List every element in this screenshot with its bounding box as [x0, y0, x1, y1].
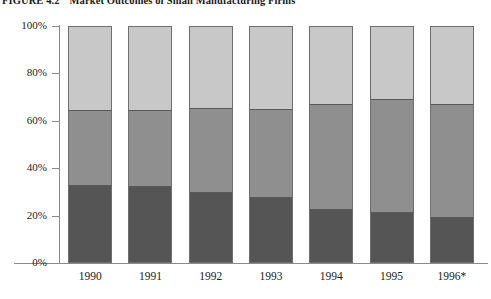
bar-column[interactable]	[249, 26, 293, 263]
bar-segment[interactable]	[189, 26, 233, 108]
bar-segment[interactable]	[309, 209, 353, 264]
y-axis-tick	[52, 73, 60, 74]
bar-column[interactable]	[128, 26, 172, 263]
bar-segment[interactable]	[128, 110, 172, 186]
y-axis-tick-label: 40%	[0, 162, 47, 173]
bar-segment[interactable]	[68, 110, 112, 185]
bar-column[interactable]	[370, 26, 414, 263]
bar-column[interactable]	[68, 26, 112, 263]
bar-segment[interactable]	[249, 109, 293, 197]
bar-segment[interactable]	[309, 26, 353, 104]
bar-segment[interactable]	[249, 26, 293, 109]
stacked-bar-chart: 0%20%40%60%80%100% 199019911992199319941…	[0, 0, 491, 299]
bar-segment[interactable]	[189, 192, 233, 263]
bar-segment[interactable]	[128, 26, 172, 110]
x-axis-line	[14, 263, 488, 264]
y-axis-tick-label: 20%	[0, 210, 47, 221]
bar-segment[interactable]	[430, 26, 474, 104]
bar-segment[interactable]	[68, 185, 112, 263]
x-axis-label: 1996*	[417, 270, 487, 282]
bar-segment[interactable]	[309, 104, 353, 208]
bar-segment[interactable]	[430, 104, 474, 217]
bar-segment[interactable]	[68, 26, 112, 110]
y-axis-tick	[52, 168, 60, 169]
y-axis-tick	[52, 216, 60, 217]
bar-segment[interactable]	[430, 217, 474, 263]
bar-column[interactable]	[189, 26, 233, 263]
bar-segment[interactable]	[249, 197, 293, 263]
y-axis-tick-label: 0%	[0, 257, 47, 268]
bar-segment[interactable]	[370, 26, 414, 99]
y-axis-tick-label: 100%	[0, 20, 47, 31]
bar-column[interactable]	[430, 26, 474, 263]
bar-segment[interactable]	[128, 186, 172, 263]
y-axis-tick	[52, 26, 60, 27]
bar-column[interactable]	[309, 26, 353, 263]
y-axis-tick	[52, 263, 60, 264]
bar-segment[interactable]	[370, 212, 414, 263]
y-axis-tick-label: 80%	[0, 67, 47, 78]
plot-area	[60, 26, 482, 263]
bar-segment[interactable]	[189, 108, 233, 192]
bar-segment[interactable]	[370, 99, 414, 212]
y-axis-tick	[52, 121, 60, 122]
y-axis-tick-label: 60%	[0, 115, 47, 126]
